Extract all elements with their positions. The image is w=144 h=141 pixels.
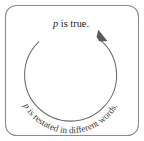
figure-canvas: p is true. p is restated in different wo… [0,0,144,141]
top-label: p is true. [52,18,89,29]
circular-reasoning-figure: p is true. p is restated in different wo… [0,0,144,141]
top-label-rest: is true. [58,18,89,29]
